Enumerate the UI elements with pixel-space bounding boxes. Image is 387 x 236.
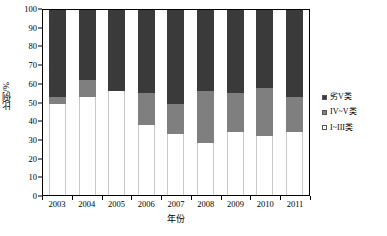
y-tick-label: 50	[29, 98, 38, 107]
legend-item: 劣V类	[322, 91, 384, 103]
bar-group	[197, 10, 214, 195]
legend-label: 劣V类	[330, 91, 352, 103]
x-tick-mark	[102, 196, 103, 200]
x-tick-label-text: 2011	[287, 199, 304, 209]
x-tick-mark	[42, 196, 43, 200]
plot-area	[43, 10, 309, 195]
y-tick-label: 20	[29, 154, 38, 163]
bar-segment	[49, 10, 66, 97]
y-tick-label: 0	[33, 192, 37, 201]
x-tick-label-text: 2003	[48, 199, 65, 209]
bar-segment	[227, 132, 244, 195]
bar-group	[227, 10, 244, 195]
x-tick-mark	[191, 196, 192, 200]
bar-group	[108, 10, 125, 195]
bar-group	[256, 10, 273, 195]
bar-segment	[256, 10, 273, 88]
bar-segment	[227, 93, 244, 132]
chart-legend: 劣V类IV~V类I~III类	[322, 91, 384, 137]
bar-segment	[286, 97, 303, 132]
x-axis-title: 年份	[42, 212, 310, 225]
x-tick-label-text: 2010	[257, 199, 274, 209]
bar-segment	[138, 10, 155, 93]
bar-segment	[227, 10, 244, 93]
x-tick-label-text: 2009	[227, 199, 244, 209]
bar-group	[49, 10, 66, 195]
legend-swatch-icon	[322, 110, 327, 115]
bar-segment	[197, 91, 214, 143]
x-tick-label-text: 2006	[138, 199, 155, 209]
x-tick-mark	[280, 196, 281, 200]
x-tick-label-text: 2008	[197, 199, 214, 209]
bar-segment	[108, 91, 125, 195]
bar-segment	[49, 97, 66, 104]
y-tick-label: 10	[29, 173, 38, 182]
legend-item: IV~V类	[322, 106, 384, 118]
bar-group	[167, 10, 184, 195]
x-tick-mark	[131, 196, 132, 200]
legend-swatch-icon	[322, 125, 327, 130]
bar-segment	[79, 97, 96, 195]
bar-segment	[256, 88, 273, 136]
y-tick-label: 100	[24, 5, 37, 14]
x-tick-label-text: 2005	[108, 199, 125, 209]
y-tick-label: 90	[29, 23, 38, 32]
y-tick-label: 40	[29, 117, 38, 126]
legend-swatch-icon	[322, 95, 327, 100]
x-tick-mark	[250, 196, 251, 200]
bar-segment	[108, 10, 125, 91]
bar-segment	[167, 104, 184, 134]
bar-segment	[197, 10, 214, 91]
x-tick-label-text: 2007	[167, 199, 184, 209]
y-tick-label: 70	[29, 61, 38, 70]
x-tick-mark	[221, 196, 222, 200]
bar-segment	[138, 93, 155, 124]
bar-segment	[197, 143, 214, 195]
bar-segment	[79, 10, 96, 80]
x-tick-label-text: 2004	[78, 199, 95, 209]
bar-segment	[167, 134, 184, 195]
plot-frame	[42, 9, 310, 196]
y-tick-label: 80	[29, 42, 38, 51]
bar-segment	[286, 10, 303, 97]
x-tick-mark	[161, 196, 162, 200]
x-tick-mark	[310, 196, 311, 200]
y-axis-title: 比例/%	[0, 82, 12, 110]
x-tick-mark	[72, 196, 73, 200]
bar-segment	[138, 125, 155, 195]
y-tick-label: 30	[29, 136, 38, 145]
bar-group	[138, 10, 155, 195]
bar-segment	[256, 136, 273, 195]
legend-item: I~III类	[322, 122, 384, 134]
bar-segment	[286, 132, 303, 195]
bar-segment	[49, 104, 66, 195]
legend-label: IV~V类	[330, 106, 357, 118]
bar-segment	[167, 10, 184, 104]
legend-label: I~III类	[330, 122, 353, 134]
bar-group	[79, 10, 96, 195]
y-tick-label: 60	[29, 80, 38, 89]
bar-group	[286, 10, 303, 195]
stacked-bar-chart: 0102030405060708090100 比例/% 200320042005…	[0, 0, 387, 236]
bar-segment	[79, 80, 96, 97]
